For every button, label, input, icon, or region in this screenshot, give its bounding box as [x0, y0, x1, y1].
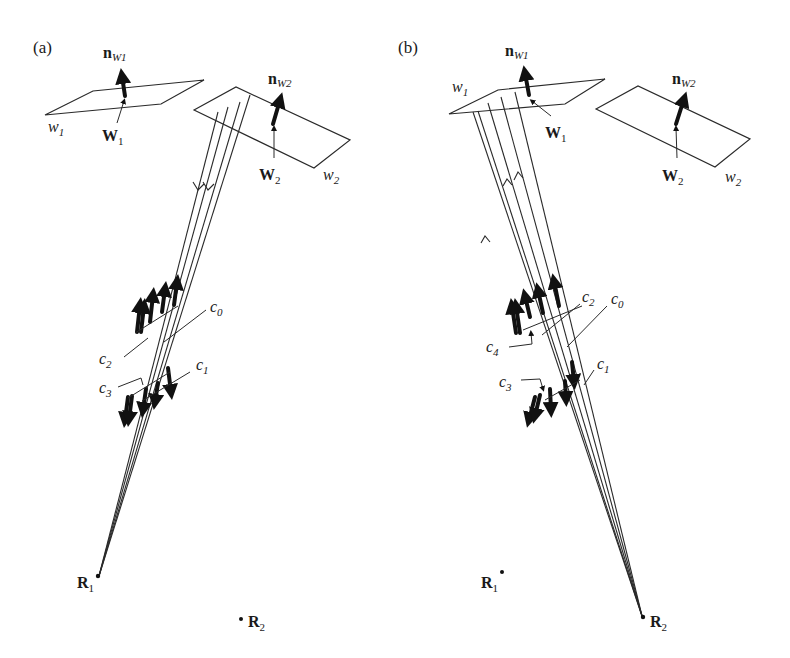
leader-line [532, 101, 551, 116]
normal-arrow-icon [122, 76, 125, 96]
component-label-c0: c0 [210, 298, 223, 318]
receiver-label-R2: R2 [248, 613, 265, 633]
panel-b-label: (b) [398, 38, 418, 57]
panel-b: (b) w1 W1 nW1 W2 w2 nW2 [398, 38, 750, 633]
point-label-W2: W2 [662, 167, 684, 187]
component-label-c2: c2 [99, 350, 112, 370]
normal-arrow-icon [273, 100, 280, 124]
wall-plane-w2 [596, 86, 750, 167]
receivers-a: R1 R2 [77, 574, 265, 633]
point-label-W1: W1 [545, 124, 567, 144]
receiver-label-R1: R1 [77, 574, 94, 594]
ray-direction-icon [481, 236, 490, 243]
wall-label-w2: w2 [725, 168, 742, 188]
panel-a-label: (a) [33, 38, 52, 57]
receivers-b: R1 R2 [481, 570, 667, 633]
ray-direction-icon [203, 182, 214, 190]
component-label-c1: c1 [597, 355, 610, 375]
point-label-W1: W1 [102, 127, 124, 147]
component-label-c1: c1 [196, 356, 209, 376]
wall-label-w2: w2 [323, 166, 340, 186]
component-labels-b: c0 c1 c2 c4 c3 [486, 288, 624, 393]
component-label-c4: c4 [486, 338, 499, 358]
component-label-c2: c2 [582, 288, 595, 308]
normal-label-nW1: nW1 [505, 42, 529, 61]
receiver-point-R1 [96, 574, 100, 578]
receiver-point-R1 [500, 570, 504, 574]
normal-arrow-icon [676, 99, 684, 124]
normal-label-nW1: nW1 [103, 44, 127, 63]
component-label-c3: c3 [99, 379, 112, 399]
point-label-W2: W2 [259, 166, 281, 186]
wall-plane-w2 [194, 87, 350, 168]
figure-canvas: (a) w1 W1 nW1 W2 w2 nW2 [0, 0, 790, 658]
wall-w2-b: W2 w2 nW2 [596, 70, 750, 188]
receiver-label-R1: R1 [481, 574, 498, 594]
receiver-label-R2: R2 [650, 613, 667, 633]
component-label-c3: c3 [499, 373, 512, 393]
receiver-point-R2 [239, 617, 243, 621]
wall-label-w1: w1 [452, 78, 468, 98]
component-label-c0: c0 [611, 290, 624, 310]
normal-label-nW2: nW2 [672, 70, 696, 89]
wall-w1-b: w1 W1 nW1 [449, 42, 605, 144]
wall-label-w1: w1 [48, 118, 64, 138]
wall-w2-a: W2 w2 nW2 [194, 70, 350, 186]
component-arrows-up-a [135, 282, 178, 333]
leader-line [676, 128, 677, 158]
panel-a: (a) w1 W1 nW1 W2 w2 nW2 [33, 38, 350, 633]
normal-label-nW2: nW2 [268, 70, 292, 89]
component-arrows-down-b [529, 362, 580, 420]
receiver-point-R2 [641, 615, 645, 619]
leader-line [117, 101, 124, 123]
ray-bundle-a [99, 95, 250, 576]
wall-w1-a: w1 W1 nW1 [45, 44, 204, 147]
normal-arrow-icon [525, 73, 529, 95]
